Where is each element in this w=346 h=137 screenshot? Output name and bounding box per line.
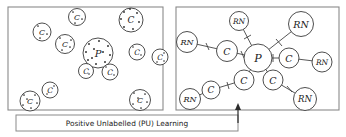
node-label: C <box>39 28 45 37</box>
cluster-node: C <box>102 64 118 80</box>
node-label: C <box>137 96 143 105</box>
node-reliable-negative: RN <box>294 88 317 111</box>
node-label: C <box>128 15 135 25</box>
cluster-node: C <box>20 91 40 111</box>
cluster-node: C <box>119 8 143 32</box>
node-classifier: C <box>263 70 283 90</box>
cluster-node: C <box>56 35 75 54</box>
node-label: RN <box>182 95 197 104</box>
node-label: C <box>208 85 215 95</box>
cluster-node: C <box>33 23 51 41</box>
node-label: C <box>285 53 293 64</box>
node-label: RN <box>297 94 312 104</box>
left-panel-unlabelled-pool: C C C <box>8 7 168 111</box>
node-classifier: C <box>279 48 299 68</box>
cluster-node: C <box>42 82 58 98</box>
node-label: C <box>107 68 113 77</box>
node-label: RN <box>179 38 194 47</box>
figure-root: C C C <box>0 0 346 137</box>
node-label: C <box>47 86 53 95</box>
node-label: P <box>253 52 262 65</box>
cluster-node: C <box>129 44 145 60</box>
node-label: C <box>74 13 80 22</box>
node-label: C <box>240 75 248 86</box>
node-classifier: C <box>234 70 254 90</box>
node-classifier: C <box>217 41 238 62</box>
node-label: RN <box>315 58 329 67</box>
node-reliable-negative: RN <box>180 89 201 110</box>
node-positive: P <box>244 44 272 72</box>
caption-label: Positive Unlabelled (PU) Learning <box>66 119 189 128</box>
node-label: RN <box>232 17 246 26</box>
node-label: C <box>62 40 68 49</box>
cluster-node: C <box>79 64 94 79</box>
node-reliable-negative: RN <box>312 52 332 72</box>
node-reliable-negative: RN <box>289 12 314 37</box>
node-label: C <box>134 48 140 57</box>
node-label: C <box>223 46 231 57</box>
node-label: C <box>27 97 33 106</box>
right-panel-pu-graph: P C C C C <box>176 7 339 111</box>
node-label: RN <box>292 19 309 30</box>
node-label: C <box>269 75 277 86</box>
cluster-node: C <box>69 9 86 26</box>
cluster-node: C <box>130 90 151 111</box>
node-classifier: C <box>202 81 220 99</box>
node-reliable-negative: RN <box>177 32 198 53</box>
pu-learning-figure: C C C <box>0 0 346 137</box>
node-reliable-negative: RN <box>230 12 249 31</box>
cluster-node: C <box>152 49 168 65</box>
node-label: C <box>157 53 163 62</box>
